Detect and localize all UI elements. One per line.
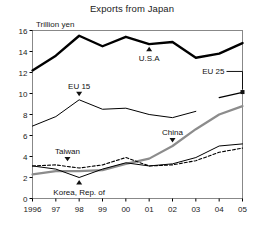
annotation-leader-eu-25 — [227, 71, 243, 89]
annotation-marker-eu-25 — [241, 90, 245, 94]
x-tick-label: 99 — [98, 205, 107, 214]
series-line-eu-15 — [33, 100, 196, 126]
pointer-triangle-eu-15 — [76, 92, 82, 96]
annotation-label-korea-rep-of: Korea, Rep. of — [53, 188, 105, 197]
y-tick-label: 8 — [23, 111, 28, 120]
annotation-label-eu-25: EU 25 — [202, 67, 225, 76]
annotation-label-u-s-a: U.S.A — [139, 54, 161, 63]
x-tick-label: 02 — [168, 205, 177, 214]
y-tick-label: 12 — [19, 69, 28, 78]
y-axis-ticks: 0246810121416 — [19, 27, 33, 204]
y-tick-label: 2 — [23, 174, 28, 183]
series-line-eu-25 — [219, 92, 242, 97]
series-line-u-s-a — [33, 36, 243, 71]
x-tick-label: 97 — [51, 205, 60, 214]
y-tick-label: 10 — [19, 90, 28, 99]
annotation-layer: U.S.AEU 15EU 25ChinaTaiwanKorea, Rep. of — [53, 47, 244, 197]
pointer-triangle-u-s-a — [146, 47, 152, 51]
x-tick-label: 00 — [121, 205, 130, 214]
annotation-label-eu-15: EU 15 — [68, 82, 91, 91]
pointer-triangle-korea-rep-of — [76, 180, 82, 184]
x-tick-label: 03 — [191, 205, 200, 214]
y-tick-label: 16 — [19, 27, 28, 36]
x-axis-ticks: 1996979899000102030405 — [24, 199, 248, 214]
x-tick-label: 01 — [145, 205, 154, 214]
y-tick-label: 0 — [23, 195, 28, 204]
annotation-label-taiwan: Taiwan — [55, 147, 80, 156]
series-layer — [33, 36, 243, 178]
annotation-label-china: China — [162, 128, 183, 137]
y-tick-label: 14 — [19, 48, 28, 57]
x-tick-label: 1996 — [24, 205, 42, 214]
x-tick-label: 98 — [75, 205, 84, 214]
x-tick-label: 04 — [215, 205, 224, 214]
pointer-triangle-china — [170, 138, 176, 142]
y-tick-label: 4 — [23, 153, 28, 162]
chart-svg: 0246810121416 1996979899000102030405 U.S… — [0, 0, 264, 226]
x-tick-label: 05 — [238, 205, 247, 214]
chart-container: Exports from Japan Trillion yen 02468101… — [0, 0, 264, 226]
y-tick-label: 6 — [23, 132, 28, 141]
pointer-triangle-taiwan — [65, 157, 71, 161]
